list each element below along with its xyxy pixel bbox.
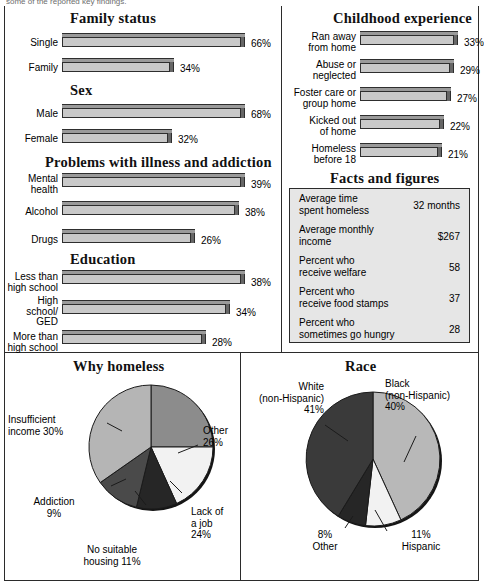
bar-front-face	[62, 62, 170, 72]
bar-category-label: High school/ GED	[6, 296, 58, 328]
bar-side-face	[191, 233, 195, 243]
bar-shape	[62, 129, 172, 143]
bar-category-label: Abuse or neglected	[288, 60, 356, 81]
fact-row: Percent who sometimes go hungry28	[290, 313, 469, 344]
bar-shape	[360, 143, 442, 157]
bar-shape	[360, 87, 451, 101]
bar-shape	[62, 229, 195, 243]
bar-shape	[62, 201, 239, 215]
cut-off-caption: some of the reported key findings.	[6, 0, 186, 6]
bar-category-label: Mental health	[6, 174, 58, 195]
fact-label: Percent who receive food stamps	[299, 286, 407, 309]
bar-category-label: Foster care or group home	[288, 88, 356, 109]
bar-row: High school/ GED34%	[6, 297, 281, 327]
bar-chart-family-status: Single66%Family34%	[6, 30, 281, 80]
bar-side-face	[454, 35, 458, 45]
bar-front-face	[360, 35, 454, 45]
bar-value-label: 38%	[251, 277, 271, 288]
bar-side-face	[241, 37, 245, 47]
section-title-sex: Sex	[70, 82, 92, 99]
bar-row: Male68%	[6, 101, 281, 126]
bar-value-label: 22%	[450, 121, 470, 132]
bar-row: Drugs26%	[6, 226, 281, 254]
bar-side-face	[450, 63, 454, 73]
bar-row: Female32%	[6, 126, 281, 151]
bar-chart-childhood: Ran away from home33%Abuse or neglected2…	[288, 28, 478, 168]
fact-label: Average monthly income	[299, 224, 407, 247]
pie-chart-why-homeless	[86, 383, 216, 513]
bar-side-face	[241, 108, 245, 118]
bar-category-label: Less than high school	[6, 272, 58, 293]
bar-row: Alcohol38%	[6, 198, 281, 226]
bar-shape	[62, 300, 230, 314]
bar-row: Mental health39%	[6, 170, 281, 198]
bar-value-label: 27%	[457, 93, 477, 104]
pie-label-white: White (non-Hispanic) 41%	[246, 381, 324, 416]
pie-label-no-housing: No suitable housing 11%	[56, 544, 168, 567]
bar-category-label: Homeless before 18	[288, 144, 356, 165]
section-title-education: Education	[70, 251, 135, 268]
pie-label-hispanic: 11% Hispanic	[390, 529, 452, 552]
bar-category-label: Ran away from home	[288, 32, 356, 53]
bar-value-label: 29%	[460, 65, 480, 76]
bar-value-label: 21%	[448, 149, 468, 160]
bar-front-face	[62, 133, 168, 143]
bar-category-label: Drugs	[6, 235, 58, 246]
bar-value-label: 66%	[251, 37, 271, 48]
pie-label-lack-of-job: Lack of a job 24%	[191, 506, 239, 541]
bar-category-label: Alcohol	[6, 207, 58, 218]
section-title-family-status: Family status	[70, 10, 156, 27]
bar-chart-problems: Mental health39%Alcohol38%Drugs26%	[6, 170, 281, 254]
bar-category-label: Male	[6, 108, 58, 119]
bar-front-face	[62, 304, 226, 314]
bar-value-label: 38%	[245, 207, 265, 218]
bar-side-face	[235, 205, 239, 215]
pie-why-homeless-svg	[86, 383, 216, 513]
fact-row: Percent who receive welfare58	[290, 251, 469, 282]
fact-value: 37	[449, 292, 460, 303]
bar-front-face	[62, 108, 241, 118]
fact-value: $267	[438, 230, 460, 241]
section-title-facts: Facts and figures	[330, 170, 439, 187]
bar-row: Ran away from home33%	[288, 28, 478, 56]
bar-category-label: Single	[6, 37, 58, 48]
bar-front-face	[62, 233, 191, 243]
bar-value-label: 28%	[212, 337, 232, 348]
bar-front-face	[360, 91, 447, 101]
bar-value-label: 33%	[464, 37, 484, 48]
bar-front-face	[62, 37, 241, 47]
bar-category-label: Female	[6, 133, 58, 144]
bar-shape	[360, 31, 458, 45]
section-title-race: Race	[345, 358, 376, 375]
fact-label: Percent who receive welfare	[299, 255, 407, 278]
bar-front-face	[62, 205, 235, 215]
bar-row: Abuse or neglected29%	[288, 56, 478, 84]
section-title-why-homeless: Why homeless	[73, 358, 164, 375]
section-title-childhood: Childhood experience	[333, 10, 472, 27]
bar-shape	[62, 104, 245, 118]
bar-category-label: More than high school	[6, 332, 58, 353]
bar-row: More than high school28%	[6, 327, 281, 357]
bar-value-label: 34%	[236, 307, 256, 318]
frame-divider-vertical-top	[281, 6, 282, 352]
fact-row: Average monthly income$267	[290, 220, 469, 251]
bar-side-face	[440, 119, 444, 129]
bar-shape	[62, 173, 245, 187]
bar-value-label: 34%	[180, 62, 200, 73]
bar-row: Less than high school38%	[6, 267, 281, 297]
bar-shape	[62, 58, 174, 72]
bar-row: Foster care or group home27%	[288, 84, 478, 112]
bar-front-face	[360, 147, 438, 157]
bar-front-face	[62, 177, 241, 187]
bar-chart-education: Less than high school38%High school/ GED…	[6, 267, 281, 357]
bar-shape	[360, 59, 454, 73]
bar-side-face	[241, 274, 245, 284]
bar-front-face	[62, 334, 202, 344]
bar-side-face	[226, 304, 230, 314]
pie-label-other: Other 26%	[203, 425, 253, 448]
facts-and-figures-table: Average time spent homeless32 monthsAver…	[289, 188, 470, 343]
bar-value-label: 32%	[178, 133, 198, 144]
bar-shape	[62, 330, 206, 344]
section-title-problems: Problems with illness and addiction	[45, 154, 272, 171]
